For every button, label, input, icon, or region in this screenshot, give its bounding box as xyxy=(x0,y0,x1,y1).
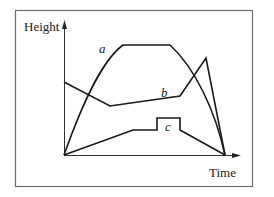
x-axis-arrow-icon xyxy=(232,153,241,158)
y-axis-label: Height xyxy=(24,19,60,34)
curve-a-label: a xyxy=(99,41,106,56)
curve-b-label: b xyxy=(161,85,168,100)
y-axis-arrow-icon xyxy=(62,20,67,29)
diagram-frame xyxy=(16,11,253,187)
curve-c-label: c xyxy=(165,119,171,134)
curve-a xyxy=(64,45,225,155)
axes: Height Time xyxy=(24,19,241,180)
curve-b xyxy=(64,58,225,155)
height-time-diagram: Height Time a b c xyxy=(0,0,274,197)
curve-c xyxy=(64,118,225,155)
x-axis-label: Time xyxy=(209,165,236,180)
